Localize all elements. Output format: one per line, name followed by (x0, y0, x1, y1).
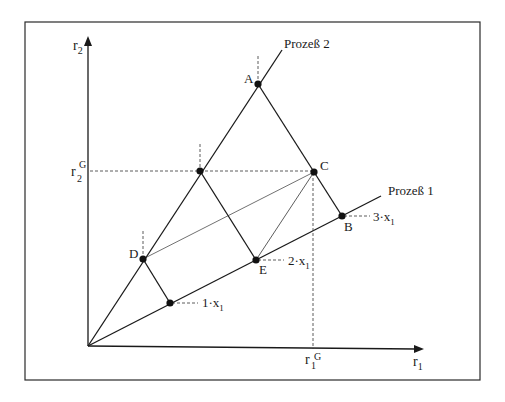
x-axis (88, 346, 416, 349)
label-E: E (259, 262, 267, 277)
label-C: C (320, 158, 329, 173)
segment-D-1x1 (143, 259, 170, 303)
y-axis-arrow-icon (84, 36, 92, 46)
r2G-sup: G (79, 159, 86, 170)
label-B: B (344, 219, 353, 234)
label-A: A (244, 71, 254, 86)
level-1-label: 1·x1 (202, 295, 224, 313)
label-D: D (129, 246, 138, 261)
segment-A-B (258, 84, 342, 216)
process-2-label: Prozeß 2 (284, 36, 330, 51)
diagram-canvas: r2 r1 r 2 G r 1 G Prozeß 2 Prozeß 1 A C … (0, 0, 505, 402)
process-1-label: Prozeß 1 (388, 183, 434, 198)
process-1-ray (88, 196, 381, 346)
r1G-label: r (305, 352, 310, 367)
line-D-C (143, 172, 314, 259)
process-2-ray (88, 50, 282, 346)
level-2-label: 2·x1 (288, 253, 310, 271)
level-3-label: 3·x1 (373, 209, 395, 227)
r2G-sub: 2 (77, 173, 82, 184)
point-level-1 (166, 299, 173, 306)
x-axis-arrow-icon (414, 345, 424, 353)
r2G-label: r (71, 164, 76, 179)
line-E-C (256, 172, 314, 260)
point-D (139, 255, 146, 262)
point-mid (196, 167, 203, 174)
point-A (254, 80, 261, 87)
x-axis-label: r1 (413, 354, 423, 372)
y-axis-label: r2 (73, 38, 83, 56)
r1G-sup: G (314, 351, 321, 362)
point-C (310, 168, 317, 175)
